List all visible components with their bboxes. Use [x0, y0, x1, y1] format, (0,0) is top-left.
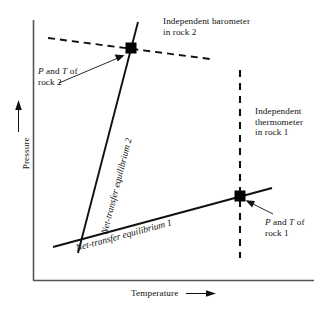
pt-rock1-of-text: of	[294, 217, 304, 227]
x-axis-label: Temperature	[131, 288, 178, 299]
marker-pt-rock1	[235, 191, 246, 202]
barometer-annotation-line-2: in rock 2	[163, 27, 197, 37]
thermometer-annotation-line-3: in rock 1	[255, 127, 289, 137]
x-axis-arrow-icon	[186, 290, 216, 297]
pt-rock2-annotation: P and T of rock 2	[38, 66, 78, 87]
arrow-to-rock1-marker-icon	[246, 200, 274, 214]
pt-rock1-annotation: P and T of rock 1	[265, 217, 305, 238]
pt-rock2-and-text: and	[44, 66, 62, 76]
pt-rock2-line-2: rock 2	[38, 77, 62, 87]
marker-pt-rock2	[126, 43, 137, 54]
thermometer-annotation-line-2: thermometer	[255, 117, 303, 127]
barometer-annotation-line-1: Independent barometer	[163, 16, 250, 26]
thermometer-annotation-line-1: Independent	[255, 106, 302, 116]
pt-diagram-figure: Net-transfer equilibrium 1 Net-transfer …	[0, 0, 331, 309]
pt-rock1-line-2: rock 1	[265, 228, 289, 238]
pt-rock2-of-text: of	[67, 66, 77, 76]
plot-canvas	[0, 0, 331, 309]
y-axis-label: Pressure	[21, 124, 32, 182]
independent-barometer-annotation: Independent barometer in rock 2	[163, 16, 250, 37]
independent-thermometer-annotation: Independent thermometer in rock 1	[255, 106, 303, 138]
pt-rock1-and-text: and	[271, 217, 289, 227]
